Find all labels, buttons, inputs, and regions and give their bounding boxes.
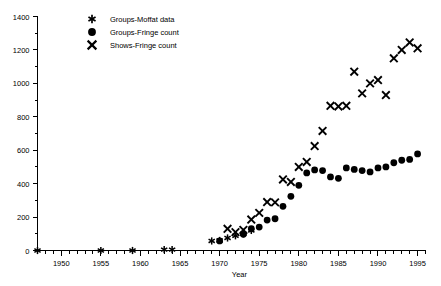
data-point	[335, 103, 343, 111]
data-point	[255, 209, 263, 217]
data-point	[295, 182, 302, 189]
legend-marker-circle	[88, 28, 96, 36]
data-point	[311, 167, 318, 174]
y-tick-label: 1000	[13, 79, 30, 88]
x-tick-label: 1975	[251, 259, 268, 268]
data-point	[406, 39, 414, 47]
data-point	[224, 234, 230, 241]
y-tick-label: 1400	[13, 13, 30, 22]
data-point	[382, 91, 390, 99]
data-point	[248, 225, 255, 232]
x-tick-label: 1960	[132, 259, 149, 268]
data-point	[390, 159, 397, 166]
data-point	[216, 238, 223, 245]
data-point	[398, 46, 406, 54]
y-tick-label: 200	[17, 213, 30, 222]
legend-item: Groups-Moffat data	[88, 15, 175, 24]
data-point	[383, 164, 390, 171]
data-point	[263, 198, 271, 206]
data-point	[311, 142, 319, 150]
data-point	[264, 217, 271, 224]
y-tick-label: 800	[17, 113, 30, 122]
data-point	[209, 237, 215, 244]
y-tick-label: 1200	[13, 46, 30, 55]
y-tick-label: 600	[17, 146, 30, 155]
x-tick-label: 1995	[409, 259, 426, 268]
data-point	[343, 165, 350, 172]
data-point	[319, 167, 326, 174]
legend-label: Shows-Fringe count	[110, 41, 178, 50]
data-point	[359, 167, 366, 174]
data-point	[414, 150, 421, 157]
data-point	[271, 199, 279, 207]
data-point	[374, 76, 382, 84]
legend-item: Groups-Fringe count	[88, 28, 180, 37]
legend-item: Shows-Fringe count	[88, 41, 178, 50]
legend-label: Groups-Fringe count	[110, 28, 180, 37]
x-tick-label: 1980	[290, 259, 307, 268]
data-point	[398, 157, 405, 164]
data-point	[169, 246, 175, 253]
x-tick-label: 1950	[53, 259, 70, 268]
x-tick-label: 1970	[211, 259, 228, 268]
data-point	[406, 156, 413, 163]
data-point	[287, 193, 294, 200]
data-point	[295, 163, 303, 171]
legend-marker-asterisk	[88, 15, 95, 23]
data-point	[280, 203, 287, 210]
x-tick-label: 1990	[370, 259, 387, 268]
data-point	[343, 102, 351, 110]
data-point	[161, 246, 167, 253]
x-tick-label: 1965	[172, 259, 189, 268]
x-axis-title: Year	[232, 270, 248, 279]
data-point	[287, 178, 295, 186]
data-point	[327, 102, 335, 110]
legend-marker-cross	[88, 41, 97, 50]
series-circle	[216, 150, 421, 244]
data-point	[367, 169, 374, 176]
data-point	[279, 176, 287, 184]
data-point	[414, 44, 422, 52]
data-point	[303, 170, 310, 177]
data-point	[366, 80, 374, 88]
y-tick-label: 0	[25, 247, 29, 256]
data-point	[272, 215, 279, 222]
series-cross	[224, 39, 422, 236]
data-point	[350, 68, 358, 76]
data-point	[351, 166, 358, 173]
x-tick-label: 1955	[93, 259, 110, 268]
data-point	[327, 174, 334, 181]
scatter-plot: 1950195519601965197019751980198519901995…	[0, 0, 441, 286]
data-point	[358, 90, 366, 98]
data-point	[224, 225, 232, 233]
data-point	[319, 127, 327, 135]
data-point	[390, 54, 398, 62]
data-point	[247, 216, 255, 224]
data-point	[335, 175, 342, 182]
data-point	[303, 158, 311, 166]
chart-page: 1950195519601965197019751980198519901995…	[0, 0, 441, 286]
y-tick-label: 400	[17, 180, 30, 189]
data-point	[375, 165, 382, 172]
x-tick-label: 1985	[330, 259, 347, 268]
legend-label: Groups-Moffat data	[110, 15, 175, 24]
data-point	[256, 224, 263, 231]
